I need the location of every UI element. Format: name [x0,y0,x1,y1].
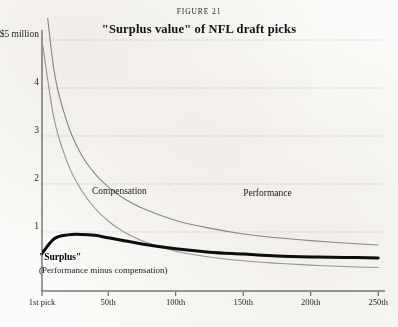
y-tick-label-2: 2 [34,173,39,183]
series-curve-compensation [42,40,378,268]
x-tick-label-200: 200th [301,297,320,307]
series-curve-surplus [42,234,378,258]
series-label-surplus-sub: (Performance minus compensation) [39,265,167,275]
series-curve-performance [42,0,378,245]
chart-plot-area [0,0,398,327]
x-tick-label-50: 50th [101,297,116,307]
y-tick-label-4: 4 [34,77,39,87]
y-tick-label-1: 1 [34,221,39,231]
axis-ticks [42,292,378,296]
y-tick-label-5: $5 million [0,29,39,39]
gridlines [42,40,385,232]
x-tick-label-100: 100th [166,297,185,307]
series-label-performance: Performance [243,188,292,198]
x-tick-label-1: 1st pick [29,297,56,307]
y-tick-label-3: 3 [34,125,39,135]
series-label-compensation: Compensation [92,186,147,196]
x-tick-label-250: 250th [369,297,388,307]
x-tick-label-150: 150th [234,297,253,307]
figure-page: FIGURE 21 "Surplus value" of NFL draft p… [0,0,398,327]
series-label-surplus: "Surplus" [39,252,81,262]
